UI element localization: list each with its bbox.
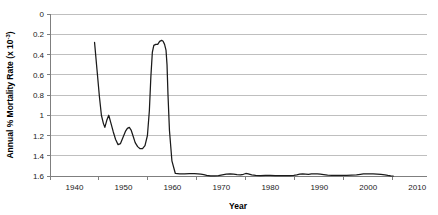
y-tick-label: 0.8 [33, 91, 45, 100]
x-axis-title: Year [229, 201, 248, 211]
y-tick-label: 0.6 [33, 71, 45, 80]
mortality-rate-line-chart: 00.20.40.60.811.21.41.6 1940195019601970… [0, 0, 438, 215]
y-axis-tick-labels: 00.20.40.60.811.21.41.6 [33, 10, 45, 181]
y-tick-label: 0.4 [33, 51, 45, 60]
y-tick-label: 0 [40, 10, 45, 19]
x-tick-label: 1950 [115, 183, 133, 192]
y-tick-label: 0.2 [33, 30, 45, 39]
y-tick-label: 1.2 [33, 132, 45, 141]
y-axis-title: Annual % Mortality Rate (x 10-3) [5, 31, 15, 158]
y-axis-title-text: Annual % Mortality Rate (x 10-3) [5, 31, 15, 158]
x-tick-label: 1980 [261, 183, 279, 192]
x-tick-label: 1990 [310, 183, 328, 192]
y-tick-label: 1.4 [33, 152, 45, 161]
x-tick-label: 1940 [66, 183, 84, 192]
y-tick-label: 1.6 [33, 172, 45, 181]
chart-container: 00.20.40.60.811.21.41.6 1940195019601970… [0, 0, 438, 215]
x-tick-label: 1960 [164, 183, 182, 192]
x-tick-label: 1970 [212, 183, 230, 192]
x-tick-label: 2000 [359, 183, 377, 192]
x-tick-label: 2010 [408, 183, 426, 192]
y-tick-label: 1 [40, 111, 45, 120]
